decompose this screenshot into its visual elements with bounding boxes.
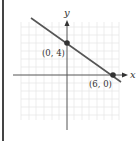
coordinate-plane: y x (0, 4) (6, 0) (0, 0, 140, 141)
point-label-6-0: (6, 0) (89, 79, 112, 89)
point-0-4 (64, 40, 70, 46)
y-axis-arrow-icon (65, 20, 70, 26)
point-label-0-4: (0, 4) (42, 48, 65, 58)
x-axis-arrow-icon (122, 73, 128, 78)
x-axis-label: x (130, 69, 136, 80)
point-6-0 (110, 72, 116, 78)
y-axis-label: y (63, 7, 70, 18)
figure-frame: y x (0, 4) (6, 0) (0, 0, 140, 141)
